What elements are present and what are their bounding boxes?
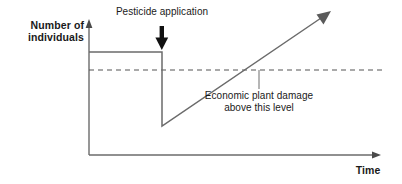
y-axis-label-line2: individuals [28, 31, 84, 43]
pesticide-resurgence-figure: Number ofindividuals Time Pesticide appl… [0, 0, 402, 184]
arrowhead-icon [372, 152, 381, 159]
y-axis [86, 19, 93, 155]
economic-damage-label: Economic plant damageabove this level [194, 90, 324, 114]
x-axis-label: Time [340, 164, 396, 176]
arrowhead-icon [86, 19, 93, 28]
x-axis [89, 152, 381, 159]
y-axis-label: Number ofindividuals [6, 19, 84, 44]
arrowhead-icon [317, 11, 332, 25]
economic-damage-label-line1: Economic plant damage [205, 90, 313, 101]
down-arrow-icon [155, 26, 168, 50]
pesticide-application-label: Pesticide application [110, 6, 214, 18]
economic-damage-label-line2: above this level [224, 102, 294, 113]
y-axis-label-line1: Number of [31, 19, 84, 31]
